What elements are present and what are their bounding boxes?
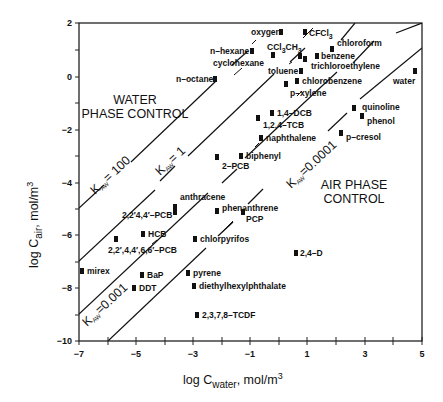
point-chlorobenzene	[295, 78, 299, 84]
x-tick-neg5: −5	[131, 349, 141, 359]
label-cfcl3: CFCl3	[309, 28, 333, 40]
y-tick-2: 2	[67, 18, 72, 28]
point-benzene	[315, 53, 319, 59]
label-phenol: phenol	[367, 116, 395, 126]
point-1-4-dcb	[270, 110, 274, 116]
label-diethylhexylphthalate: diethylhexylphthalate	[199, 281, 286, 291]
point-1-2-4-tcb	[256, 115, 260, 121]
label-p-xylene: p–xylene	[290, 88, 327, 98]
label-biphenyl: biphenyl	[246, 151, 281, 161]
x-tick-5: 5	[419, 349, 424, 359]
label-n-octane: n–octane	[176, 74, 214, 84]
label-water: water	[392, 76, 416, 86]
water-phase-control-label-1: WATER	[113, 93, 157, 107]
label-2-3-7-8-tcdf: 2,3,7,8–TCDF	[202, 310, 255, 320]
kaw-0.0001-line-c	[248, 189, 263, 204]
kaw-1-label: KAW= 1	[152, 144, 188, 178]
label-oxygen: oxygen	[251, 27, 281, 37]
kaw-0.0001-line-d	[328, 113, 347, 131]
point-ccl3ch3	[271, 52, 275, 58]
kaw-0.001-line-e	[396, 23, 422, 33]
y-tick-neg4: −4	[62, 178, 72, 188]
y-tick-neg10: −10	[57, 336, 72, 346]
y-tick-neg6: −6	[62, 230, 72, 240]
x-tick-1: 1	[304, 349, 309, 359]
label-chloroform: chloroform	[337, 38, 382, 48]
point-ddt	[132, 285, 136, 291]
kaw-100-label: KAW= 100	[87, 153, 133, 197]
x-tick-neg3: −3	[188, 349, 198, 359]
y-tick-neg2: −2	[62, 125, 72, 135]
point-trichloroethylene-b	[303, 56, 307, 62]
label-mirex: mirex	[87, 266, 110, 276]
label-quinoline: quinoline	[362, 102, 400, 112]
point-toluene	[299, 68, 303, 74]
label-phenanthrene: phenanthrene	[222, 203, 278, 213]
label-pyrene: pyrene	[193, 268, 221, 278]
label-ddt: DDT	[139, 283, 157, 293]
point-mirex	[80, 268, 84, 274]
kaw-0.0001-line-e	[360, 48, 422, 99]
data-points	[80, 29, 417, 318]
point-p-cresol	[339, 130, 343, 136]
kaw-0.001-line-b	[222, 169, 237, 183]
point-2-2-4-4-6-6-pcb	[114, 236, 118, 242]
point-n-octane	[213, 76, 217, 82]
y-tick-neg8: −8	[62, 283, 72, 293]
point-chlorpyrifos	[193, 236, 197, 242]
chart-figure: 2 0 −2 −4 −6 −8 −10 −7 −5 −3 −1 1 3 5 lo…	[0, 0, 443, 402]
point-p-xylene	[284, 81, 288, 87]
point-2-2-4-4-pcb	[173, 209, 177, 215]
label-bap: BaP	[147, 270, 164, 280]
label-pcp: PCP	[246, 214, 264, 224]
y-tick-labels: 2 0 −2 −4 −6 −8 −10	[57, 18, 72, 346]
water-phase-control-label-2: PHASE CONTROL	[82, 107, 189, 121]
air-phase-control-label-2: CONTROL	[323, 192, 384, 206]
y-axis-label: log Cair, mol/m3	[25, 182, 44, 268]
point-2-3-7-8-tcdf	[195, 312, 199, 318]
air-phase-control-label-1: AIR PHASE	[321, 178, 388, 192]
kaw-0.001-label: KAW=0.001	[79, 280, 130, 329]
x-tick-neg1: −1	[245, 349, 255, 359]
label-1-4-dcb: 1,4–DCB	[277, 108, 312, 118]
label-1-2-4-tcb: 1,2,4–TCB	[263, 120, 304, 130]
point-2-pcb	[215, 154, 219, 160]
point-2-4-d	[294, 250, 298, 256]
x-tick-neg7: −7	[74, 349, 84, 359]
label-p-cresol: p–cresol	[346, 132, 381, 142]
label-chlorpyrifos: chlorpyrifos	[200, 234, 249, 244]
label-naphthalene: naphthalene	[266, 133, 316, 143]
point-naphthalene	[259, 135, 263, 141]
point-phenanthrene	[215, 208, 219, 214]
point-labels: oxygen CFCl3 n–hexane CCl3CH3 chloroform…	[87, 27, 416, 320]
label-2-2-4-4-pcb: 2,2′4,4′–PCB	[122, 210, 172, 220]
label-hcb: HCB	[148, 229, 166, 239]
label-toluene: toluene	[268, 66, 298, 76]
label-cyclohexane: cyclohexane	[213, 58, 264, 68]
x-axis-label: log Cwater, mol/m3	[183, 371, 283, 390]
point-phenol	[360, 113, 364, 119]
label-anthracene: anthracene	[180, 192, 226, 202]
point-n-hexane	[250, 48, 254, 54]
label-2-pcb: 2–PCB	[222, 161, 249, 171]
label-n-hexane: n–hexane	[210, 46, 249, 56]
point-cfcl3	[303, 29, 307, 35]
point-water	[413, 68, 417, 74]
point-hcb	[141, 231, 145, 237]
y-tick-0: 0	[67, 72, 72, 82]
point-biphenyl	[239, 153, 243, 159]
label-trichloroethylene: trichloroethylene	[311, 61, 380, 71]
x-tick-3: 3	[362, 349, 367, 359]
point-quinoline	[352, 105, 356, 111]
point-pyrene	[186, 270, 190, 276]
label-2-2-4-4-6-6-pcb: 2,2′,4,4′,6,6′–PCB	[108, 245, 177, 255]
x-tick-labels: −7 −5 −3 −1 1 3 5	[74, 349, 425, 359]
label-chlorobenzene: chlorobenzene	[302, 76, 362, 86]
label-2-4-d: 2,4–D	[300, 248, 323, 258]
point-diethylhexylphthalate	[192, 283, 196, 289]
chart-svg: 2 0 −2 −4 −6 −8 −10 −7 −5 −3 −1 1 3 5 lo…	[0, 0, 443, 402]
point-bap	[140, 272, 144, 278]
label-benzene: benzene	[321, 51, 355, 61]
